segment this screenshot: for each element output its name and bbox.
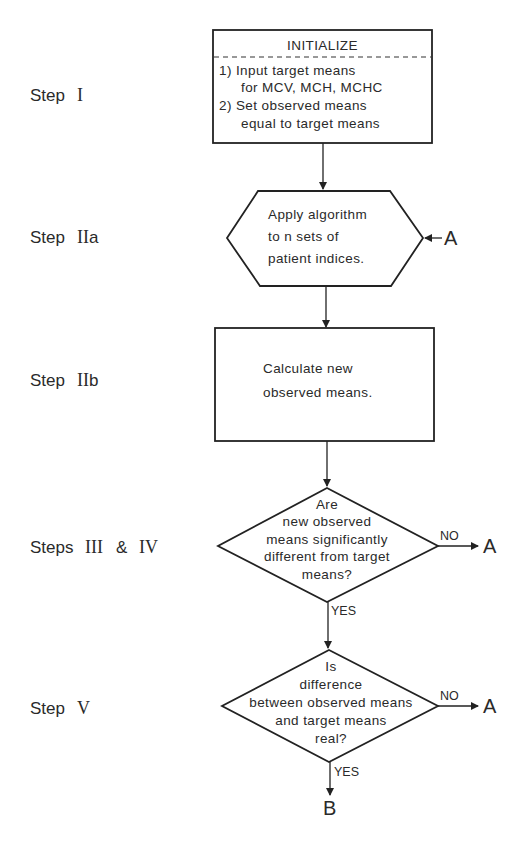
apply-algorithm-hexagon: Apply algorithm to n sets of patient ind… <box>227 191 423 286</box>
svg-text:to n sets of: to n sets of <box>268 229 339 244</box>
decision-significant-difference: Are new observed means significantly dif… <box>218 488 438 602</box>
svg-text:Step: Step <box>30 699 65 718</box>
svg-text:A: A <box>483 695 497 717</box>
svg-text:Are: Are <box>316 497 338 512</box>
svg-text:II: II <box>77 370 89 390</box>
svg-text:1) Input target means: 1) Input target means <box>219 63 356 78</box>
svg-text:I: I <box>77 85 83 105</box>
svg-text:Calculate new: Calculate new <box>263 361 353 376</box>
svg-text:NO: NO <box>440 529 459 543</box>
svg-text:&: & <box>116 538 128 557</box>
svg-text:means significantly: means significantly <box>266 532 388 547</box>
step-label-1: Step I <box>30 85 83 105</box>
svg-text:observed means.: observed means. <box>263 385 373 400</box>
svg-text:new observed: new observed <box>283 514 372 529</box>
svg-text:Steps: Steps <box>30 538 73 557</box>
initialize-box: INITIALIZE 1) Input target means for MCV… <box>213 30 432 143</box>
svg-text:a: a <box>89 228 99 247</box>
svg-text:b: b <box>89 371 98 390</box>
svg-text:A: A <box>483 535 497 557</box>
step-label-2a: Step II a <box>30 227 99 247</box>
decision-difference-real: Is difference between observed means and… <box>222 650 438 762</box>
svg-text:for MCV, MCH, MCHC: for MCV, MCH, MCHC <box>241 80 383 95</box>
svg-text:IV: IV <box>139 537 158 557</box>
svg-text:Step: Step <box>30 228 65 247</box>
step-label-3-4: Steps III & IV <box>30 537 158 557</box>
svg-text:equal to target means: equal to target means <box>241 116 380 131</box>
svg-text:A: A <box>444 227 458 249</box>
decision2-no-branch: NO A <box>438 689 497 717</box>
flowchart: Step I Step II a Step II b Steps III & I… <box>0 0 529 849</box>
decision1-no-branch: NO A <box>438 529 497 557</box>
decision2-yes-branch: YES B <box>323 762 359 819</box>
svg-text:difference: difference <box>299 677 362 692</box>
decision1-yes-branch: YES <box>328 602 356 648</box>
step-label-5: Step V <box>30 698 90 718</box>
svg-text:patient indices.: patient indices. <box>268 251 364 266</box>
svg-text:V: V <box>77 698 90 718</box>
svg-text:II: II <box>77 227 89 247</box>
svg-text:Step: Step <box>30 86 65 105</box>
connector-b: B <box>323 797 336 819</box>
svg-text:and target means: and target means <box>275 713 386 728</box>
svg-text:YES: YES <box>334 765 359 779</box>
svg-text:between observed means: between observed means <box>249 695 412 710</box>
step-label-2b: Step II b <box>30 370 98 390</box>
svg-text:NO: NO <box>440 689 459 703</box>
svg-text:different from target: different from target <box>264 549 390 564</box>
initialize-title: INITIALIZE <box>287 38 358 53</box>
svg-text:Step: Step <box>30 371 65 390</box>
svg-text:YES: YES <box>331 604 356 618</box>
svg-text:means?: means? <box>302 567 352 582</box>
calculate-box: Calculate new observed means. <box>215 328 434 441</box>
connector-a-in: A <box>425 227 458 249</box>
svg-text:Is: Is <box>325 659 336 674</box>
svg-text:Apply algorithm: Apply algorithm <box>268 207 367 222</box>
svg-text:III: III <box>85 537 103 557</box>
svg-text:2) Set observed means: 2) Set observed means <box>219 98 367 113</box>
svg-text:real?: real? <box>315 731 347 746</box>
